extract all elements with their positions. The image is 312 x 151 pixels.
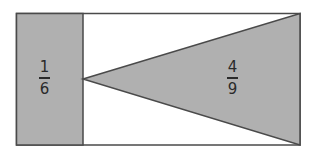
triangle-numerator: 4 xyxy=(228,60,238,75)
strip-fraction-label: 1 6 xyxy=(39,60,50,97)
strip-numerator: 1 xyxy=(40,60,50,75)
triangle-fraction-label: 4 9 xyxy=(227,60,238,97)
fraction-bar xyxy=(227,77,238,79)
triangle-denominator: 9 xyxy=(228,82,238,97)
strip-denominator: 6 xyxy=(40,82,50,97)
fraction-bar xyxy=(39,77,50,79)
